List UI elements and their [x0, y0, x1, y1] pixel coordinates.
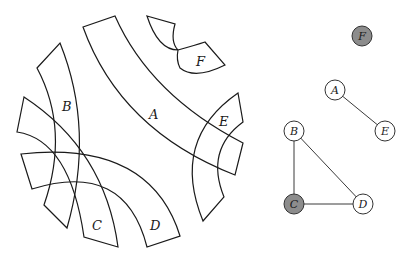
- band-label-d: D: [149, 218, 161, 233]
- svg-text:A: A: [330, 84, 339, 97]
- arc-band-diagram: A B C D E F: [17, 16, 243, 247]
- node-e: E: [375, 121, 395, 141]
- node-c: C: [284, 194, 304, 214]
- svg-text:D: D: [358, 198, 368, 211]
- node-d: D: [353, 194, 373, 214]
- band-b: [37, 43, 79, 228]
- edge-b-d: [294, 131, 363, 204]
- svg-text:E: E: [380, 125, 389, 138]
- band-label-e: E: [218, 114, 229, 129]
- svg-text:B: B: [289, 125, 298, 138]
- band-a: [83, 16, 243, 175]
- band-label-f: F: [195, 54, 206, 69]
- node-f: F: [352, 26, 372, 46]
- intersection-graph: F A E B C D: [284, 26, 395, 214]
- node-b: B: [284, 121, 304, 141]
- svg-text:F: F: [357, 30, 366, 43]
- band-label-a: A: [148, 107, 158, 122]
- band-label-c: C: [92, 218, 102, 233]
- band-f: [147, 16, 225, 73]
- band-e: [192, 93, 243, 221]
- node-a: A: [325, 80, 345, 100]
- svg-text:C: C: [290, 198, 299, 211]
- figure: A B C D E F F A E B C: [0, 0, 415, 259]
- band-label-b: B: [61, 99, 72, 114]
